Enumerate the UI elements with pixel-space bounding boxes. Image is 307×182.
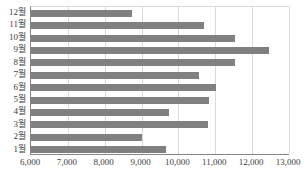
y-tick-label-11월: 11월 [9, 18, 26, 30]
y-tick-label-10월: 10월 [9, 31, 26, 43]
bar-row [31, 57, 235, 69]
y-tick-label-3월: 3월 [14, 118, 27, 130]
bar-4월 [31, 109, 169, 116]
y-tick-label-1월: 1월 [14, 143, 27, 155]
y-tick-label-7월: 7월 [14, 68, 27, 80]
bar-10월 [31, 35, 235, 42]
y-tick-label-12월: 12월 [9, 6, 26, 18]
y-tick-label-2월: 2월 [14, 130, 27, 142]
bar-row [31, 131, 142, 143]
bar-series [31, 7, 289, 154]
bar-row [31, 94, 209, 106]
y-tick-label-9월: 9월 [14, 43, 27, 55]
bar-row [31, 44, 269, 56]
bar-6월 [31, 84, 216, 91]
x-tick-label-9000: 9,000 [130, 157, 150, 167]
x-tick-label-12000: 12,000 [239, 157, 264, 167]
x-tick-label-13000: 13,000 [276, 157, 301, 167]
x-axis-value-labels: 6,0007,0008,0009,00010,00011,00012,00013… [0, 157, 307, 173]
x-tick-label-8000: 8,000 [94, 157, 114, 167]
y-axis-category-labels: 12월11월10월9월8월7월6월5월4월3월2월1월 [0, 6, 28, 155]
bar-row [31, 119, 208, 131]
bar-row [31, 144, 166, 156]
y-tick-label-4월: 4월 [14, 105, 27, 117]
bar-3월 [31, 121, 208, 128]
bar-12월 [31, 10, 132, 17]
bar-row [31, 19, 204, 31]
bar-row [31, 82, 216, 94]
bar-row [31, 69, 199, 81]
bar-9월 [31, 47, 269, 54]
y-tick-label-5월: 5월 [14, 93, 27, 105]
bar-7월 [31, 72, 199, 79]
bar-1월 [31, 146, 166, 153]
bar-11월 [31, 22, 204, 29]
y-tick-label-6월: 6월 [14, 81, 27, 93]
y-tick-label-8월: 8월 [14, 56, 27, 68]
bar-row [31, 32, 235, 44]
x-tick-label-10000: 10,000 [165, 157, 190, 167]
x-tick-label-11000: 11,000 [202, 157, 226, 167]
x-tick-label-6000: 6,000 [20, 157, 40, 167]
bar-2월 [31, 134, 142, 141]
x-tick-label-7000: 7,000 [57, 157, 77, 167]
bar-8월 [31, 59, 235, 66]
bar-5월 [31, 97, 209, 104]
bar-row [31, 106, 169, 118]
plot-area [30, 6, 289, 155]
bar-chart: 12월11월10월9월8월7월6월5월4월3월2월1월 6,0007,0008,… [0, 0, 307, 182]
gridline-13000 [289, 7, 290, 154]
bar-row [31, 7, 132, 19]
